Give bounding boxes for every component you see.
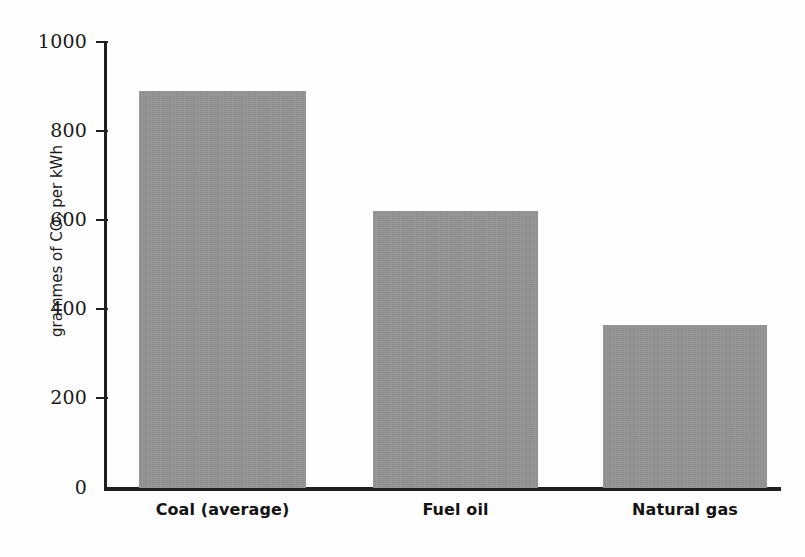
y-tick-label: 800 (9, 121, 87, 140)
y-tick-mark (96, 397, 108, 399)
y-axis-title: grammes of CO2 per kWh (49, 121, 67, 361)
y-tick-mark (96, 130, 108, 132)
x-axis-label-fuel-oil: Fuel oil (373, 500, 538, 520)
y-tick-label: 1000 (9, 32, 87, 51)
y-tick-label: 400 (9, 299, 87, 318)
y-tick-label: 200 (9, 388, 87, 407)
y-tick-mark (96, 41, 108, 43)
y-tick-mark (96, 308, 108, 310)
bar-chart-figure: grammes of CO2 per kWh 1000 800 600 400 … (0, 0, 805, 557)
y-tick-label: 0 (9, 478, 87, 497)
x-axis-label-natural-gas: Natural gas (603, 500, 767, 520)
x-axis-label-coal-average: Coal (average) (139, 500, 306, 520)
y-tick-label: 600 (9, 210, 87, 229)
y-axis-line (104, 41, 107, 490)
bar-coal-average (139, 91, 306, 488)
y-tick-mark (96, 219, 108, 221)
bar-natural-gas (603, 325, 767, 488)
y-axis-title-suffix: per kWh (48, 145, 66, 212)
bar-fuel-oil (373, 211, 538, 488)
y-axis-title-prefix: grammes of CO (48, 220, 66, 337)
